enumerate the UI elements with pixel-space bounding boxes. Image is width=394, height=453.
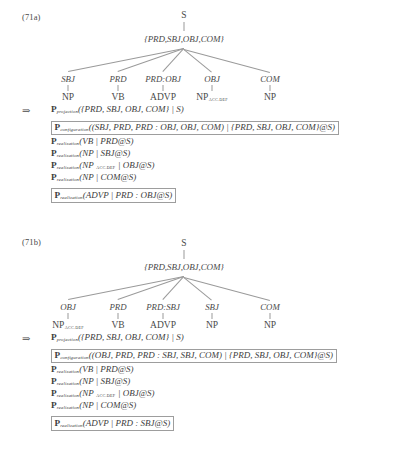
derivation-rule: Prealization(NP | COM@S) (51, 400, 394, 412)
rule-operator: Prealization (51, 136, 79, 146)
syntax-tree: S{PRD,SBJ,OBJ,COM}SBJNPPRDVBPRD:OBJADVPO… (0, 0, 394, 104)
tree-root-node: S (181, 238, 186, 248)
tree-leaf-node: NPACC.DEF (196, 92, 228, 102)
rule-block: ⇒Pprojection({PRD, SBJ, OBJ, COM} | S)Pc… (22, 332, 394, 431)
tree-function-label: COM (260, 302, 280, 312)
rule-operator: Pprojection (51, 104, 78, 114)
rule-operator: Prealization (55, 418, 83, 428)
rule-operator: Prealization (51, 376, 79, 386)
tree-leaf-node: NP (264, 92, 276, 102)
tree-branch-leaf-stem (212, 85, 213, 91)
tree-branch-root-stem (184, 250, 185, 259)
rule-arguments: ((OBJ, PRD, PRD : SBJ, SBJ, COM) | {PRD,… (89, 350, 333, 360)
derivation-rule: Prealization(ADVP | PRD : OBJ@S) (51, 188, 176, 202)
rule-operator-subscript: realization (57, 153, 80, 158)
tree-function-label: OBJ (204, 74, 220, 84)
tree-branch-leaf-stem (163, 313, 164, 319)
rule-arguments: ({PRD, SBJ, OBJ, COM} | S) (78, 332, 184, 342)
rule-operator-subscript: realization (57, 369, 80, 374)
rule-operator: Prealization (51, 160, 79, 170)
tree-leaf-node: ADVP (150, 92, 176, 102)
rule-operator-subscript: realization (57, 381, 80, 386)
syntax-tree: S{PRD,SBJ,OBJ,COM}OBJNPACC.DEFPRDVBPRD:S… (0, 228, 394, 332)
tree-branch-leaf-stem (118, 313, 119, 319)
rule-operator: Pconfiguration (55, 122, 89, 132)
rule-operator-subscript: realization (60, 195, 83, 200)
leaf-subscript: ACC.DEF (65, 325, 84, 330)
tree-function-label: OBJ (60, 302, 76, 312)
derivation-arrow-icon: ⇒ (22, 334, 30, 344)
tree-function-label: SBJ (205, 302, 219, 312)
rule-list: Pprojection({PRD, SBJ, OBJ, COM} | S)Pco… (51, 104, 394, 203)
rule-arguments: (ADVP | PRD : OBJ@S) (83, 190, 173, 200)
derivation-rule: Prealization(ADVP | PRD : SBJ@S) (51, 416, 174, 430)
rule-list: Pprojection({PRD, SBJ, OBJ, COM} | S)Pco… (51, 332, 394, 431)
derivation-rule: Pprojection({PRD, SBJ, OBJ, COM} | S) (51, 332, 394, 344)
derivation-rule: Pconfiguration((OBJ, PRD, PRD : SBJ, SBJ… (51, 349, 337, 363)
derivation-rule: Prealization(NP | SBJ@S) (51, 148, 394, 160)
tree-leaf-node: NPACC.DEF (52, 320, 84, 330)
rule-operator-subscript: configuration (60, 355, 89, 360)
derivation-arrow-icon: ⇒ (22, 106, 30, 116)
tree-branch-root-stem (184, 22, 185, 31)
tree-leaf-node: ADVP (150, 320, 176, 330)
tree-leaf-node: NP (264, 320, 276, 330)
rule-operator: Pprojection (51, 332, 78, 342)
tree-function-label: PRD (109, 302, 126, 312)
rule-arguments: (VB | PRD@S) (79, 136, 133, 146)
rule-operator: Pconfiguration (55, 350, 89, 360)
rule-operator-subscript: realization (57, 165, 80, 170)
rule-arguments: ({PRD, SBJ, OBJ, COM} | S) (78, 104, 184, 114)
rule-arguments: (NP | SBJ@S) (79, 376, 130, 386)
tree-branch-leaf-stem (163, 85, 164, 91)
derivation-rule: Prealization(VB | PRD@S) (51, 136, 394, 148)
rule-operator-subscript: configuration (60, 127, 89, 132)
rule-arguments: (NP | COM@S) (79, 400, 136, 410)
tree-branch-leaf-stem (118, 85, 119, 91)
tree-leaf-node: VB (111, 320, 124, 330)
rule-operator-subscript: realization (57, 141, 80, 146)
derivation-rule: Prealization(NP | COM@S) (51, 172, 394, 184)
tree-function-label: COM (260, 74, 280, 84)
rule-operator: Prealization (51, 172, 79, 182)
derivation-rule: Pprojection({PRD, SBJ, OBJ, COM} | S) (51, 104, 394, 116)
leaf-subscript: ACC.DEF (209, 97, 228, 102)
tree-function-label: PRD:OBJ (145, 74, 181, 84)
rule-operator: Prealization (55, 190, 83, 200)
tree-branch-leaf-stem (270, 85, 271, 91)
rule-operator-subscript: projection (57, 337, 78, 342)
rule-arguments: (NP | SBJ@S) (79, 148, 130, 158)
rule-arguments: (NP | COM@S) (79, 172, 136, 182)
rule-arguments: (ADVP | PRD : SBJ@S) (83, 418, 171, 428)
rule-operator: Prealization (51, 364, 79, 374)
rule-operator: Prealization (51, 388, 79, 398)
tree-function-label: PRD:SBJ (146, 302, 180, 312)
derivation-rule: Pconfiguration((SBJ, PRD, PRD : OBJ, OBJ… (51, 121, 339, 135)
derivation-example: (71b)S{PRD,SBJ,OBJ,COM}OBJNPACC.DEFPRDVB… (0, 228, 394, 453)
derivation-rule: Prealization(NP ACC.DEF | OBJ@S) (51, 388, 394, 400)
tree-branch-leaf-stem (68, 85, 69, 91)
rule-operator-subscript: realization (60, 423, 83, 428)
tree-branch-leaf-stem (270, 313, 271, 319)
tree-feature-set-node: {PRD,SBJ,OBJ,COM} (144, 34, 224, 44)
tree-leaf-node: NP (206, 320, 218, 330)
derivation-rule: Prealization(VB | PRD@S) (51, 364, 394, 376)
derivation-rule: Prealization(NP ACC.DEF | OBJ@S) (51, 160, 394, 172)
tree-function-label: PRD (109, 74, 126, 84)
tree-function-label: SBJ (61, 74, 75, 84)
rule-arguments: (NP ACC.DEF | OBJ@S) (79, 160, 154, 170)
rule-operator-subscript: realization (57, 177, 80, 182)
rule-operator-subscript: realization (57, 405, 80, 410)
rule-operator: Prealization (51, 400, 79, 410)
rule-operator-subscript: projection (57, 109, 78, 114)
rule-arguments: (NP ACC.DEF | OBJ@S) (79, 388, 154, 398)
tree-root-node: S (181, 10, 186, 20)
rule-block: ⇒Pprojection({PRD, SBJ, OBJ, COM} | S)Pc… (22, 104, 394, 203)
rule-arguments: ((SBJ, PRD, PRD : OBJ, OBJ, COM) | {PRD,… (89, 122, 335, 132)
tree-leaf-node: VB (111, 92, 124, 102)
rule-operator: Prealization (51, 148, 79, 158)
derivation-example: (71a)S{PRD,SBJ,OBJ,COM}SBJNPPRDVBPRD:OBJ… (0, 0, 394, 228)
tree-branch-leaf-stem (212, 313, 213, 319)
tree-feature-set-node: {PRD,SBJ,OBJ,COM} (144, 262, 224, 272)
tree-leaf-node: NP (62, 92, 74, 102)
